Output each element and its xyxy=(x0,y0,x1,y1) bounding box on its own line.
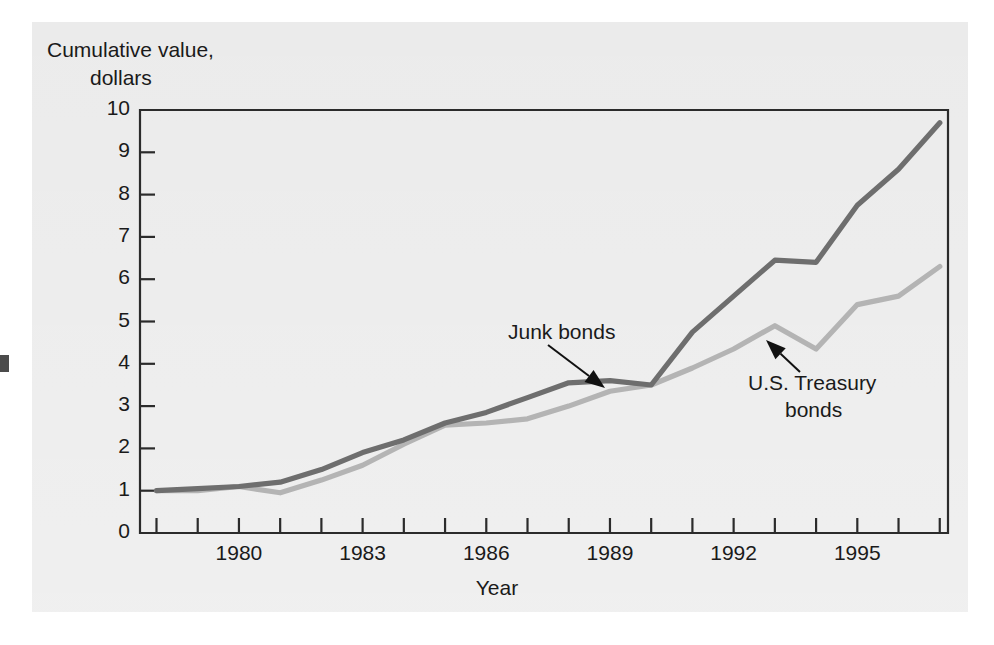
data-series-layer xyxy=(157,123,940,493)
plot-frame xyxy=(140,110,948,533)
chart-canvas xyxy=(0,0,994,645)
figure-root: Cumulative value, dollars Year Junk bond… xyxy=(0,0,994,645)
annotation-arrows xyxy=(548,340,800,388)
